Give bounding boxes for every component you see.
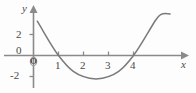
y-axis-arrowhead xyxy=(30,5,38,13)
y-tick-label-minus-2: -2 xyxy=(10,70,19,81)
y-axis xyxy=(30,5,38,88)
y-tick-label-0: 0 xyxy=(16,45,22,56)
origin-label: O xyxy=(30,57,37,66)
x-tick-label-4: 4 xyxy=(130,60,136,71)
graph-figure: y x 2 0 -2 1 2 3 4 O xyxy=(0,0,196,93)
y-tick-label-2: 2 xyxy=(16,29,22,40)
y-axis-label: y xyxy=(22,3,27,14)
coordinate-plane-svg xyxy=(0,0,196,93)
x-axis-label: x xyxy=(181,59,186,70)
x-tick-label-1: 1 xyxy=(55,60,61,71)
x-tick-label-3: 3 xyxy=(105,60,111,71)
x-tick-label-2: 2 xyxy=(80,60,86,71)
